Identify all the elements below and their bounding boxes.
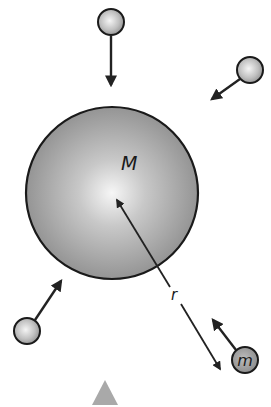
central-mass: M (26, 107, 198, 279)
arrow-icon (35, 281, 61, 320)
central-mass-label: M (121, 152, 137, 174)
small-body-top-right (212, 57, 263, 99)
distance-label: r (171, 286, 178, 304)
small-body-sphere (14, 318, 40, 344)
test-mass-label: m (237, 351, 253, 370)
small-body-bottom-left (14, 281, 61, 344)
distance-arrow-outer (181, 304, 220, 369)
gravity-diagram: M r m (0, 0, 271, 407)
arrow-icon (212, 79, 240, 99)
arrow-icon (213, 320, 236, 350)
small-body-sphere (237, 57, 263, 83)
small-body-top (98, 9, 124, 85)
small-body-sphere (98, 9, 124, 35)
test-mass: m (213, 320, 258, 373)
central-mass-sphere (26, 107, 198, 279)
triangle-marker-icon (92, 380, 118, 405)
